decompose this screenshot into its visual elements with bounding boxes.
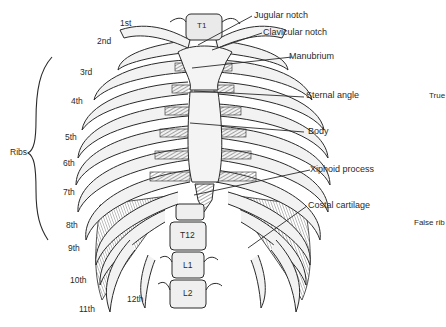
rib-label-12th: 12th <box>127 295 144 304</box>
label-false-ribs: False rib <box>414 219 445 227</box>
vertebra-label-l2: L2 <box>183 289 192 298</box>
label-clavicular-notch: Clavicular notch <box>263 28 327 37</box>
label-body: Body <box>308 127 329 136</box>
ribs-brace <box>28 57 52 240</box>
rib-cage-diagram: 1st 2nd 3rd 4th 5th 6th 7th 8th 9th 10th… <box>0 0 446 327</box>
sternum-body <box>188 92 222 182</box>
vertebra-label-t1: T1 <box>197 22 206 30</box>
rib-label-3rd: 3rd <box>80 68 92 77</box>
rib-label-2nd: 2nd <box>97 37 111 46</box>
vertebra-label-t12: T12 <box>180 231 195 240</box>
vertebra-label-l1: L1 <box>183 261 192 270</box>
rib-label-6th: 6th <box>63 159 75 168</box>
rib-label-8th: 8th <box>66 221 78 230</box>
rib-label-10th: 10th <box>70 276 87 285</box>
rib-label-9th: 9th <box>68 244 80 253</box>
label-costal-cartilage: Costal cartilage <box>308 201 370 210</box>
rib-label-5th: 5th <box>65 133 77 142</box>
ribs-group-label: Ribs <box>10 148 27 157</box>
rib-label-11th: 11th <box>79 305 95 314</box>
rib-label-1st: 1st <box>120 19 131 28</box>
label-true-ribs: True <box>429 92 445 100</box>
label-sternal-angle: Sternal angle <box>306 91 359 100</box>
label-manubrium: Manubrium <box>289 52 334 61</box>
rib-label-4th: 4th <box>71 97 83 106</box>
label-xiphoid-process: Xiphoid process <box>310 165 374 174</box>
label-jugular-notch: Jugular notch <box>254 11 308 20</box>
rib-label-7th: 7th <box>63 188 75 197</box>
